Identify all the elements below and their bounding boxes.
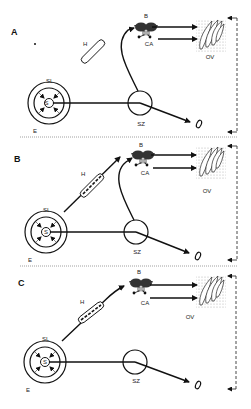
label-h: H <box>81 171 85 177</box>
label-b: B <box>139 142 143 148</box>
label-sl: SL <box>43 207 51 213</box>
label-e: E <box>33 128 37 134</box>
diagram-figure: A H B CA OV SL S E SZ <box>0 0 251 409</box>
egg-icon <box>194 380 201 389</box>
small-dot <box>34 43 36 45</box>
label-s: S <box>44 100 48 106</box>
panel-label-a: A <box>11 27 18 37</box>
label-ca: CA <box>141 170 149 176</box>
label-sl: SL <box>46 78 54 84</box>
label-h: H <box>83 41 87 47</box>
label-ov: OV <box>186 314 195 320</box>
arrow-sz-egg <box>136 232 189 253</box>
brain-icon <box>134 23 158 39</box>
arrow-sz-brain <box>121 28 138 91</box>
label-h: H <box>80 299 84 305</box>
label-b: B <box>137 269 141 275</box>
ovary-icon <box>196 20 226 52</box>
egg-icon <box>195 119 202 128</box>
label-e: E <box>28 257 32 263</box>
label-b: B <box>144 13 148 19</box>
ovary-icon <box>196 147 226 179</box>
label-sz: SZ <box>132 378 140 384</box>
panel-b: B B CA OV SL S E H SZ <box>14 142 237 263</box>
label-ca: CA <box>141 300 149 306</box>
egg-icon <box>194 251 201 260</box>
brain-icon <box>129 279 153 295</box>
panel-label-b: B <box>14 154 21 164</box>
label-sz: SZ <box>133 249 141 255</box>
panel-c: C B CA OV SL S E H SZ <box>18 269 236 393</box>
label-s: S <box>43 359 47 365</box>
label-ca: CA <box>145 41 153 47</box>
label-ov: OV <box>203 188 212 194</box>
arrow-sz-egg <box>135 362 189 382</box>
panel-label-c: C <box>18 278 25 288</box>
label-e: E <box>26 387 30 393</box>
label-sz: SZ <box>137 121 145 127</box>
label-sl: SL <box>42 336 50 342</box>
brain-icon <box>131 151 155 167</box>
label-ov: OV <box>206 54 215 60</box>
arrow-sz-brain <box>119 158 134 220</box>
panel-a: A H B CA OV SL S E SZ <box>11 13 237 134</box>
label-s: S <box>44 229 48 235</box>
ovary-icon <box>196 276 226 308</box>
